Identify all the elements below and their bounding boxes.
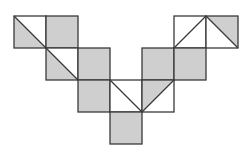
shaded-square: [110, 112, 142, 144]
cell-r1-c4: [142, 48, 174, 80]
cell-r1-c1: [46, 48, 78, 80]
cell-r2-c2: [78, 80, 110, 112]
cell-r2-c3: [110, 80, 142, 112]
cell-r0-c5: [174, 16, 206, 48]
cell-r1-c2: [78, 48, 110, 80]
cell-r0-c6: [206, 16, 238, 48]
cell-r0-c0: [14, 16, 46, 48]
shaded-square: [78, 48, 110, 80]
shaded-squares-diagram: [0, 0, 247, 153]
diagram-canvas: [0, 0, 247, 153]
cell-r0-c1: [46, 16, 78, 48]
cell-r1-c5: [174, 48, 206, 80]
shaded-square: [142, 48, 174, 80]
shaded-square: [46, 16, 78, 48]
shaded-square: [174, 48, 206, 80]
cell-r3-c3: [110, 112, 142, 144]
shaded-square: [78, 80, 110, 112]
cell-r2-c4: [142, 80, 174, 112]
